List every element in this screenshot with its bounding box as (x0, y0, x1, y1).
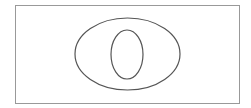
diagram-canvas (0, 0, 251, 108)
frame-rectangle (16, 6, 240, 104)
